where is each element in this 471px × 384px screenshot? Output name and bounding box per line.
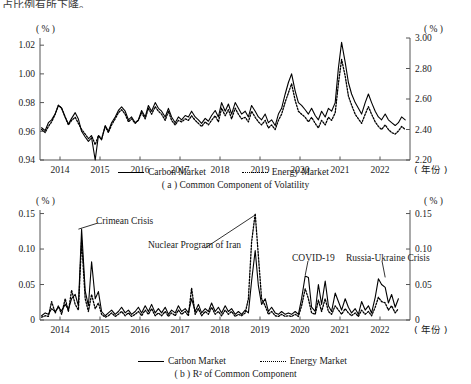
- svg-text:0.15: 0.15: [415, 209, 432, 219]
- panel-b-plot: 00.050.100.1500.050.100.1520142015201620…: [0, 196, 471, 344]
- annotation-covid-19: COVID-19: [292, 253, 335, 263]
- svg-text:2014: 2014: [51, 325, 70, 335]
- legend-carbon-label-b: Carbon Market: [168, 356, 226, 366]
- svg-text:2015: 2015: [91, 165, 110, 175]
- legend-energy-b: Energy Market: [260, 356, 347, 366]
- legend-line-solid-icon: [118, 172, 144, 173]
- annotation-russia-ukraine-crisis: Russia-Ukraine Crisis: [346, 253, 430, 263]
- panel-b-legend: Carbon Market Energy Market: [138, 356, 347, 366]
- svg-text:1.00: 1.00: [18, 69, 35, 79]
- svg-text:0.98: 0.98: [18, 98, 35, 108]
- cut-off-header-text: 占比例有所下降。: [2, 0, 122, 8]
- svg-text:0.10: 0.10: [18, 244, 35, 254]
- legend-carbon-label-a: Carbon Market: [148, 167, 206, 177]
- series-energy-market: [42, 214, 399, 318]
- svg-text:2020: 2020: [291, 325, 310, 335]
- panel-b: ( % ) ( % ) 00.050.100.1500.050.100.1520…: [0, 196, 471, 344]
- svg-text:0.94: 0.94: [18, 155, 35, 165]
- svg-text:0.96: 0.96: [18, 127, 35, 137]
- legend-energy-a: Energy Market: [242, 167, 329, 177]
- svg-text:( 年份 ): ( 年份 ): [414, 324, 447, 335]
- annotation-crimean-crisis: Crimean Crisis: [96, 216, 153, 226]
- svg-text:2014: 2014: [51, 165, 70, 175]
- legend-line-dotted-icon: [242, 172, 268, 173]
- svg-text:0.05: 0.05: [415, 280, 432, 290]
- svg-text:2022: 2022: [371, 325, 390, 335]
- legend-line-dotted-icon: [260, 361, 286, 362]
- svg-text:2019: 2019: [251, 325, 270, 335]
- svg-text:2.40: 2.40: [415, 125, 432, 135]
- legend-energy-label-b: Energy Market: [290, 356, 347, 366]
- svg-text:0: 0: [30, 315, 35, 325]
- svg-text:2015: 2015: [91, 325, 110, 335]
- svg-text:2.80: 2.80: [415, 64, 432, 74]
- svg-text:( 年份 ): ( 年份 ): [414, 164, 447, 175]
- svg-text:2021: 2021: [331, 165, 350, 175]
- panel-a: ( % ) ( % ) 0.940.960.981.001.022.202.40…: [0, 24, 471, 184]
- svg-text:2017: 2017: [171, 325, 190, 335]
- figure-root: 占比例有所下降。 ( % ) ( % ) 0.940.960.981.001.0…: [0, 0, 471, 384]
- legend-energy-label-a: Energy Market: [272, 167, 329, 177]
- svg-text:2018: 2018: [211, 325, 230, 335]
- panel-a-plot: 0.940.960.981.001.022.202.402.602.803.00…: [0, 24, 471, 184]
- legend-carbon-b: Carbon Market: [138, 356, 226, 366]
- svg-text:2016: 2016: [131, 325, 150, 335]
- svg-text:2022: 2022: [371, 165, 390, 175]
- series-energy-market: [42, 59, 406, 144]
- svg-text:2021: 2021: [331, 325, 350, 335]
- svg-text:2.60: 2.60: [415, 94, 432, 104]
- svg-text:3.00: 3.00: [415, 33, 432, 43]
- panel-a-caption: ( a ) Common Component of Volatility: [0, 180, 471, 190]
- svg-text:1.02: 1.02: [18, 40, 35, 50]
- svg-text:0.05: 0.05: [18, 280, 35, 290]
- panel-b-caption: ( b ) R² of Common Component: [0, 369, 471, 379]
- annotation-nuclear-program-iran: Nuclear Program of Iran: [148, 240, 241, 250]
- legend-carbon-a: Carbon Market: [118, 167, 206, 177]
- panel-a-legend: Carbon Market Energy Market: [118, 167, 329, 177]
- svg-text:0.15: 0.15: [18, 209, 35, 219]
- legend-line-solid-icon: [138, 361, 164, 362]
